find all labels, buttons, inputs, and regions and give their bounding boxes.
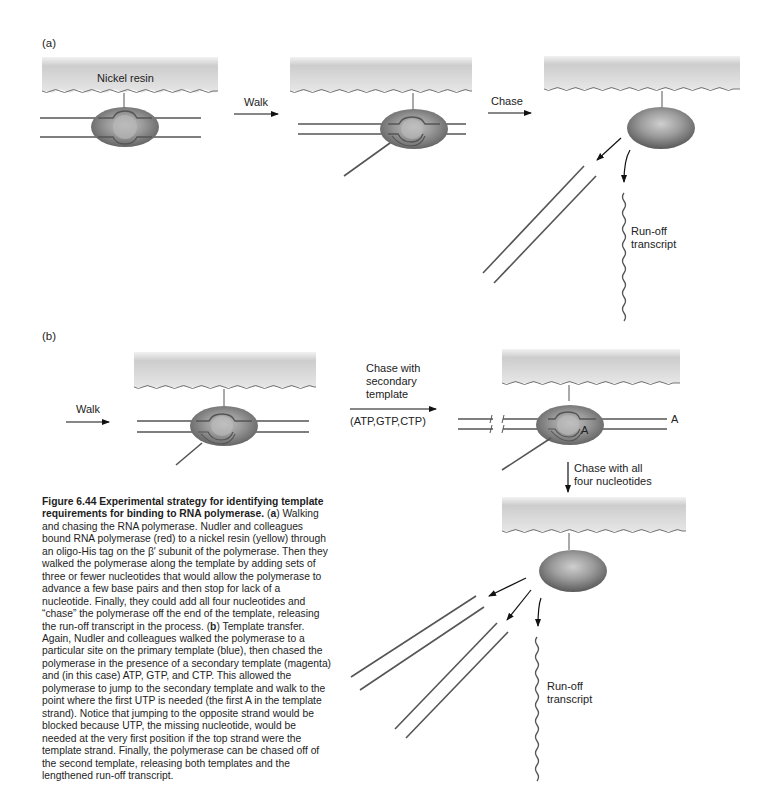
released-secondary-template [395, 623, 508, 738]
part-a-text: Walking and chasing the RNA polymerase. … [42, 508, 328, 631]
part-b-text: Template transfer. Again, Nudler and col… [42, 621, 331, 781]
chase-secondary-label-3: template [366, 388, 408, 400]
run-off-transcript-b [536, 637, 539, 781]
nascent-rna-b2 [502, 438, 551, 470]
rna-polymerase-2 [380, 109, 448, 149]
panel-a-label: (a) [42, 37, 56, 49]
run-off-label-b-2: transcript [547, 693, 592, 705]
walk-label-b: Walk [76, 403, 101, 415]
run-off-transcript-a [623, 193, 626, 321]
chase-secondary-label-2: secondary [366, 375, 417, 387]
walk-label-a: Walk [244, 96, 269, 108]
part-b-marker: b [210, 621, 216, 632]
release-arrow-transcript [624, 150, 630, 182]
nickel-resin-4 [134, 352, 316, 389]
template-inner-A: A [581, 424, 589, 436]
chase-secondary-label-1: Chase with [366, 362, 420, 374]
run-off-label-a-1: Run-off [631, 225, 668, 237]
chase-all-label-1: Chase with all [574, 462, 642, 474]
nickel-resin-5 [502, 349, 680, 385]
released-dna-template [483, 166, 596, 283]
nucleotides-label: (ATP,GTP,CTP) [350, 415, 426, 427]
nickel-resin-3 [544, 56, 740, 91]
rna-polymerase-6 [539, 550, 607, 592]
chase-label-a: Chase [491, 95, 523, 107]
release-arrow-transcript-b [538, 598, 541, 626]
nickel-resin-1: Nickel resin [42, 57, 218, 93]
nascent-rna-b [176, 443, 202, 465]
rna-polymerase-5 [536, 405, 604, 445]
panel-b-label: (b) [42, 330, 56, 342]
rna-polymerase-4 [190, 406, 258, 446]
release-arrow-template [597, 138, 621, 160]
template-end-A: A [671, 413, 679, 425]
release-arrow-primary [489, 578, 526, 596]
part-a-marker: a [271, 508, 277, 519]
resin-label: Nickel resin [97, 72, 154, 84]
nascent-rna [344, 143, 390, 176]
rna-polymerase-3 [627, 107, 695, 149]
run-off-label-b-1: Run-off [547, 680, 584, 692]
primary-template-broken [458, 415, 504, 433]
rna-polymerase-1 [91, 107, 159, 147]
caption-part-a: (a) Walking and chasing the RNA polymera… [42, 508, 331, 781]
nickel-resin-6 [502, 497, 686, 533]
release-arrow-secondary [507, 590, 531, 620]
run-off-label-a-2: transcript [631, 238, 676, 250]
chase-all-label-2: four nucleotides [574, 475, 652, 487]
figure-caption: Figure 6.44 Experimental strategy for id… [42, 496, 332, 782]
released-primary-template [351, 596, 484, 690]
nickel-resin-2 [290, 57, 472, 93]
